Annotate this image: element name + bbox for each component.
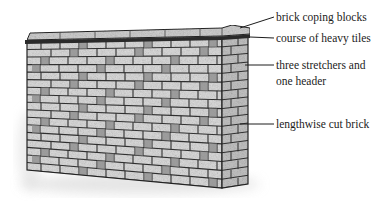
label-brick-coping-blocks: brick coping blocks bbox=[276, 10, 367, 25]
leader-tiles bbox=[250, 37, 274, 38]
leader-coping bbox=[240, 17, 274, 28]
wall-side-face bbox=[222, 30, 249, 190]
label-three-stretchers-line1: three stretchers and bbox=[276, 58, 365, 73]
wall-front-face bbox=[27, 36, 223, 191]
label-course-of-heavy-tiles: course of heavy tiles bbox=[276, 31, 371, 46]
label-lengthwise-cut-brick: lengthwise cut brick bbox=[276, 117, 369, 132]
label-three-stretchers-line2: one header bbox=[276, 74, 326, 89]
